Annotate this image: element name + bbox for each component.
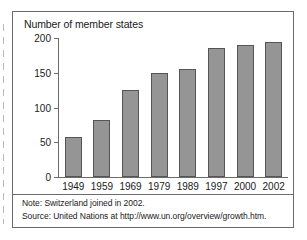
bar[interactable] (265, 42, 282, 177)
bar[interactable] (208, 48, 225, 177)
y-tick-label: 100 (34, 102, 51, 113)
y-tick-label: 200 (34, 33, 51, 44)
scan-edge-artifact (3, 24, 4, 224)
x-tick-label: 1979 (145, 179, 174, 195)
y-tick-label: 50 (40, 137, 51, 148)
x-tick-label: 1989 (174, 179, 203, 195)
chart-title: Number of member states (24, 18, 143, 30)
bar[interactable] (93, 120, 110, 177)
y-tick-mark (54, 142, 58, 143)
bar[interactable] (179, 69, 196, 177)
bar[interactable] (65, 137, 82, 177)
bar-slot (145, 38, 174, 177)
bar-slot (259, 38, 288, 177)
notes-block: Note: Switzerland joined in 2002. Source… (22, 197, 290, 223)
x-tick-label: 1969 (116, 179, 145, 195)
plot-area: 200 150 100 50 0 1949 1959 1969 1979 (13, 38, 295, 193)
note-text: Note: Switzerland joined in 2002. (22, 197, 290, 210)
source-text: Source: United Nations at http://www.un.… (22, 210, 290, 223)
x-tick-label: 1959 (88, 179, 117, 195)
x-tick-label: 2000 (231, 179, 260, 195)
bars-container (59, 38, 288, 177)
bar-slot (116, 38, 145, 177)
bar-slot (174, 38, 203, 177)
notes-divider (13, 194, 293, 195)
y-axis: 200 150 100 50 0 (13, 38, 55, 177)
x-tick-label: 2002 (259, 179, 288, 195)
bar-slot (202, 38, 231, 177)
bar[interactable] (237, 45, 254, 177)
y-tick-mark (54, 38, 58, 39)
bar-slot (88, 38, 117, 177)
y-tick-mark (54, 177, 58, 178)
x-tick-label: 1949 (59, 179, 88, 195)
x-axis-line (58, 177, 288, 178)
x-tick-label: 1997 (202, 179, 231, 195)
x-axis: 1949 1959 1969 1979 1989 1997 2000 2002 (59, 179, 288, 195)
y-tick-mark (54, 108, 58, 109)
y-tick-label: 0 (45, 172, 51, 183)
y-tick-mark (54, 73, 58, 74)
bar-slot (59, 38, 88, 177)
bar-slot (231, 38, 260, 177)
bar[interactable] (151, 73, 168, 177)
bar[interactable] (122, 90, 139, 177)
y-tick-label: 150 (34, 67, 51, 78)
chart-figure: Number of member states 200 150 100 50 0 (12, 11, 294, 228)
